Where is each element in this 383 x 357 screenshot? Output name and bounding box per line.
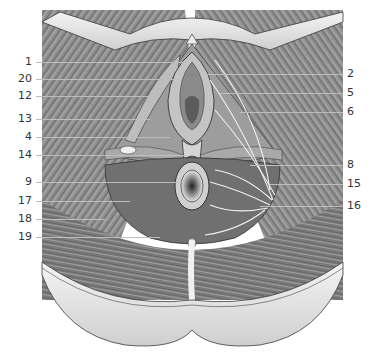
callout-label-8: 8: [347, 159, 354, 171]
leader-line-6: [240, 112, 343, 113]
leader-line-5: [220, 93, 343, 94]
gluteal-cleft: [191, 240, 192, 300]
leader-line-2: [200, 74, 343, 75]
leader-line-16: [260, 206, 343, 207]
leader-line-20: [36, 79, 175, 80]
leader-line-13: [36, 119, 150, 120]
callout-label-13: 13: [2, 113, 32, 125]
anus: [181, 170, 203, 202]
callout-label-17: 17: [2, 195, 32, 207]
callout-label-16: 16: [347, 200, 361, 212]
callout-label-4: 4: [2, 131, 32, 143]
leader-line-18: [36, 219, 105, 220]
callout-label-19: 19: [2, 231, 32, 243]
callout-label-20: 20: [2, 73, 32, 85]
leader-line-12: [36, 96, 160, 97]
leader-line-4: [36, 137, 170, 138]
callout-label-18: 18: [2, 213, 32, 225]
callout-label-6: 6: [347, 106, 354, 118]
leader-line-17: [36, 201, 130, 202]
callout-label-14: 14: [2, 149, 32, 161]
leader-line-9: [36, 182, 185, 183]
leader-line-8: [250, 165, 343, 166]
ischial-tuberosity-left: [120, 146, 136, 154]
perineum-illustration: [0, 0, 383, 357]
leader-line-1: [36, 62, 185, 63]
callout-label-12: 12: [2, 90, 32, 102]
callout-label-9: 9: [2, 176, 32, 188]
leader-line-14: [36, 155, 185, 156]
callout-label-5: 5: [347, 87, 354, 99]
callout-label-15: 15: [347, 178, 361, 190]
leader-line-19: [36, 237, 160, 238]
callout-label-1: 1: [2, 56, 32, 68]
leader-line-15: [270, 184, 343, 185]
callout-label-2: 2: [347, 68, 354, 80]
